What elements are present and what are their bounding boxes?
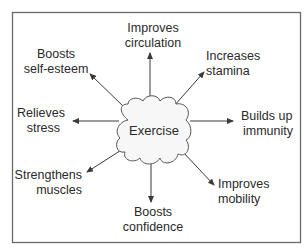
- benefit-line: Boosts: [134, 205, 172, 219]
- benefit-line: Relieves: [17, 106, 65, 120]
- benefit-line: Strengthens: [15, 168, 82, 182]
- benefit-line: stress: [27, 121, 60, 135]
- center-label: Exercise: [129, 123, 179, 138]
- benefit-line: circulation: [125, 36, 181, 50]
- benefit-line: Increases: [206, 49, 260, 63]
- benefit-line: Boosts: [37, 47, 75, 61]
- benefit-line: mobility: [218, 192, 261, 206]
- benefit-line: Improves: [127, 21, 178, 35]
- benefit-line: Improves: [218, 177, 269, 191]
- benefit-line: Builds up: [241, 109, 292, 123]
- benefit-immunity: Builds up immunity: [241, 109, 294, 138]
- exercise-benefits-diagram: Exercise Improves circulation Increases …: [0, 0, 307, 249]
- benefit-line: muscles: [36, 183, 82, 197]
- benefit-line: immunity: [243, 124, 294, 138]
- benefit-circulation: Improves circulation: [125, 21, 181, 50]
- benefit-line: stamina: [206, 64, 250, 78]
- benefit-line: confidence: [123, 220, 184, 234]
- benefit-line: self-esteem: [24, 62, 89, 76]
